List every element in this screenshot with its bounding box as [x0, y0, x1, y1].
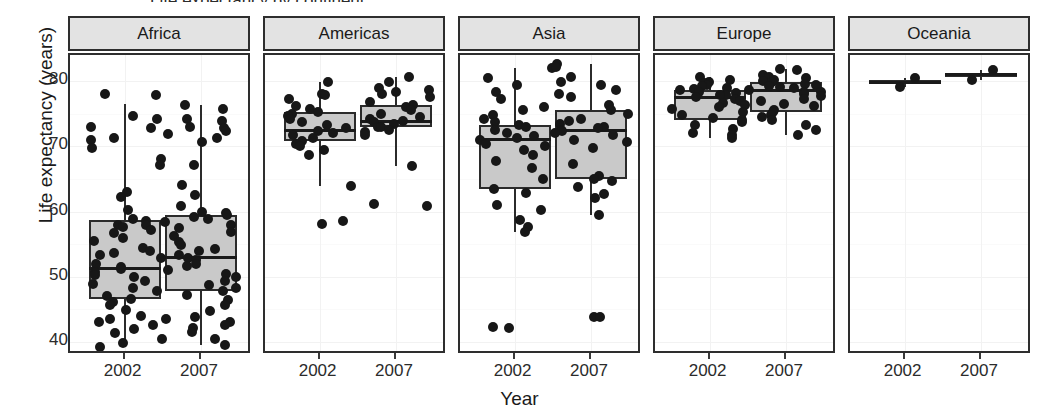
gridline-horizontal: [265, 212, 443, 213]
gridline-horizontal-minor: [265, 179, 443, 180]
data-point: [811, 125, 821, 135]
gridline-horizontal-minor: [850, 244, 1028, 245]
panel-strip-label: Americas: [263, 16, 445, 51]
data-point: [95, 342, 105, 352]
x-tick-mark: [784, 353, 786, 359]
data-point: [205, 306, 215, 316]
y-tick-label: 60: [28, 200, 68, 220]
data-point: [218, 104, 228, 114]
gridline-horizontal-minor: [850, 309, 1028, 310]
data-point: [801, 120, 811, 130]
data-point: [406, 105, 416, 115]
data-point: [677, 110, 687, 120]
data-point: [606, 105, 616, 115]
data-point: [688, 128, 698, 138]
data-point: [220, 340, 230, 350]
data-point: [573, 182, 583, 192]
data-point: [163, 265, 173, 275]
data-point: [182, 261, 192, 271]
x-tick-label: 2007: [359, 361, 429, 381]
data-point: [87, 143, 97, 153]
data-point: [105, 314, 115, 324]
x-tick-label: 2007: [944, 361, 1014, 381]
boxplot-whisker-lower: [200, 291, 202, 344]
data-point: [568, 159, 578, 169]
data-point: [518, 105, 528, 115]
gridline-horizontal-minor: [850, 114, 1028, 115]
data-point: [189, 212, 199, 222]
data-point: [128, 283, 138, 293]
gridline-horizontal: [655, 212, 833, 213]
data-point: [295, 141, 305, 151]
x-tick-mark: [123, 353, 125, 359]
data-point: [123, 205, 133, 215]
gridline-horizontal-minor: [70, 309, 248, 310]
data-point: [566, 92, 576, 102]
data-point: [607, 176, 617, 186]
gridline-horizontal-minor: [655, 309, 833, 310]
panel-strip-label: Asia: [458, 16, 640, 51]
y-axis-ticks: 4050607080: [18, 0, 68, 418]
data-point: [157, 334, 167, 344]
data-point: [146, 123, 156, 133]
x-tick-mark: [318, 353, 320, 359]
data-point: [529, 131, 539, 141]
data-point: [404, 72, 414, 82]
data-point: [297, 117, 307, 127]
data-point: [539, 102, 549, 112]
x-tick-label: 2002: [478, 361, 548, 381]
boxplot-whisker-upper: [590, 64, 592, 110]
data-point: [407, 161, 417, 171]
data-point: [623, 109, 633, 119]
x-tick-mark: [979, 353, 981, 359]
x-tick-mark: [589, 353, 591, 359]
boxplot-median-line: [750, 89, 822, 92]
data-point: [369, 199, 379, 209]
data-point: [793, 130, 803, 140]
data-point: [538, 174, 548, 184]
data-point: [320, 90, 330, 100]
gridline-horizontal: [850, 212, 1028, 213]
data-point: [554, 89, 564, 99]
data-point: [398, 116, 408, 126]
data-point: [161, 314, 171, 324]
y-tick-label: 80: [28, 69, 68, 89]
boxplot-whisker-lower: [514, 189, 516, 232]
x-tick-mark: [513, 353, 515, 359]
data-point: [365, 97, 375, 107]
data-point: [422, 201, 432, 211]
data-point: [714, 102, 724, 112]
data-point: [210, 334, 220, 344]
data-point: [176, 201, 186, 211]
data-point: [129, 324, 139, 334]
boxplot-whisker-upper: [514, 68, 516, 125]
data-point: [148, 320, 158, 330]
data-point: [317, 219, 327, 229]
gridline-horizontal: [460, 277, 638, 278]
data-point: [128, 214, 138, 224]
data-point: [576, 114, 586, 124]
data-point: [187, 327, 197, 337]
boxplot-median-line: [869, 81, 941, 84]
data-point: [512, 80, 522, 90]
panel-plot-area: [653, 53, 835, 353]
boxplot-whisker-upper: [200, 105, 202, 216]
data-point: [737, 117, 747, 127]
data-point: [191, 259, 201, 269]
data-point: [594, 210, 604, 220]
data-point: [727, 133, 737, 143]
data-point: [384, 125, 394, 135]
data-point: [590, 193, 600, 203]
data-point: [231, 272, 241, 282]
data-point: [779, 99, 789, 109]
data-point: [415, 112, 425, 122]
y-tick-label: 70: [28, 134, 68, 154]
data-point: [492, 200, 502, 210]
data-point: [177, 180, 187, 190]
data-point: [551, 62, 561, 72]
data-point: [121, 305, 131, 315]
data-point: [895, 82, 905, 92]
data-point: [212, 133, 222, 143]
facet-panel-asia: Asia20022007: [458, 16, 640, 353]
data-point: [792, 65, 802, 75]
